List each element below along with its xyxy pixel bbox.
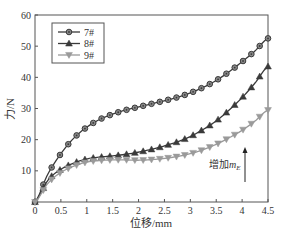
- legend: 7#8#9#: [52, 23, 104, 63]
- data-point-marker: [231, 132, 238, 138]
- data-point-marker-dot: [51, 167, 53, 169]
- x-axis-label: 位移/mm: [130, 216, 173, 229]
- data-point-marker-dot: [142, 105, 144, 107]
- data-point-marker-dot: [109, 114, 111, 116]
- x-tick-label: 2: [136, 205, 141, 216]
- data-point-marker: [265, 108, 272, 114]
- data-point-marker-dot: [151, 103, 153, 105]
- data-point-marker-dot: [126, 109, 128, 111]
- legend-marker-dot: [68, 31, 70, 33]
- data-point-marker-dot: [250, 53, 252, 55]
- x-tick-label: 1.5: [106, 205, 119, 216]
- data-point-marker-dot: [84, 128, 86, 130]
- data-point-marker-dot: [92, 122, 94, 124]
- data-point-marker-dot: [176, 97, 178, 99]
- data-point-marker-dot: [259, 45, 261, 47]
- x-tick-label: 0.5: [55, 205, 68, 216]
- data-point-marker-dot: [267, 37, 269, 39]
- y-tick-label: 30: [21, 103, 31, 114]
- y-tick-label: 60: [21, 10, 31, 21]
- legend-label: 8#: [84, 38, 94, 49]
- y-tick-label: 50: [21, 41, 31, 52]
- data-point-marker-dot: [209, 83, 211, 85]
- line-chart: 00.511.522.533.544.5102030405060 7#8#9# …: [0, 0, 281, 237]
- data-point-marker-dot: [59, 154, 61, 156]
- data-point-marker-dot: [117, 111, 119, 113]
- x-tick-label: 1: [84, 205, 89, 216]
- legend-label: 9#: [84, 50, 94, 61]
- data-point-marker: [198, 127, 205, 133]
- x-tick-label: 4.5: [262, 205, 275, 216]
- data-point-marker-dot: [201, 87, 203, 89]
- data-point-marker-dot: [167, 99, 169, 101]
- data-point-marker-dot: [184, 94, 186, 96]
- data-point-marker-dot: [192, 91, 194, 93]
- arrow-up-icon: [243, 147, 248, 153]
- data-point-marker-dot: [134, 107, 136, 109]
- annotation-label: 增加mE: [209, 158, 241, 172]
- data-point-marker-dot: [67, 143, 69, 145]
- data-point-marker: [57, 170, 64, 176]
- x-tick-label: 3.5: [210, 205, 223, 216]
- x-tick-label: 4: [240, 205, 245, 216]
- data-point-marker-dot: [76, 135, 78, 137]
- data-point-marker: [190, 132, 197, 138]
- x-tick-label: 3: [188, 205, 193, 216]
- data-point-marker-dot: [234, 67, 236, 69]
- data-point-marker: [240, 127, 247, 133]
- series-9: [32, 108, 272, 206]
- series-line: [35, 110, 268, 202]
- x-tick-label: 0: [33, 205, 38, 216]
- y-tick-label: 20: [21, 134, 31, 145]
- data-point-marker: [206, 122, 213, 128]
- y-tick-label: 10: [21, 165, 31, 176]
- y-axis-label: 力/N: [4, 98, 16, 120]
- data-point-marker-dot: [101, 118, 103, 120]
- data-point-marker: [223, 137, 230, 143]
- data-point-marker-dot: [217, 78, 219, 80]
- data-point-marker-dot: [242, 60, 244, 62]
- y-tick-label: 40: [21, 72, 31, 83]
- annotation: 增加mE: [209, 147, 248, 182]
- data-point-marker-dot: [159, 101, 161, 103]
- legend-label: 7#: [84, 27, 94, 38]
- data-point-marker-dot: [225, 73, 227, 75]
- data-point-marker: [265, 63, 272, 69]
- x-tick-label: 2.5: [158, 205, 171, 216]
